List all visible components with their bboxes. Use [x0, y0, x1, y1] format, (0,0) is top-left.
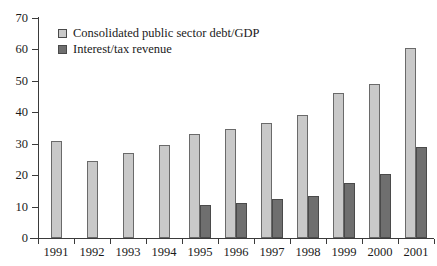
chart-legend: Consolidated public sector debt/GDPInter…: [58, 26, 259, 58]
x-axis-label-1994: 1994: [146, 246, 182, 259]
x-axis-label-1993: 1993: [110, 246, 146, 259]
bar-consolidated-public-sector-debt-gdp-1991: [51, 141, 62, 238]
x-axis-label-1999: 1999: [326, 246, 362, 259]
x-axis-tick: [74, 239, 75, 244]
x-axis-label-1995: 1995: [182, 246, 218, 259]
x-axis-label-2001: 2001: [398, 246, 434, 259]
legend-item-label: Consolidated public sector debt/GDP: [73, 27, 259, 40]
x-axis-tick: [326, 239, 327, 244]
bar-consolidated-public-sector-debt-gdp-1999: [333, 93, 344, 238]
x-axis-tick: [398, 239, 399, 244]
bar-interest-tax-revenue-1998: [308, 196, 319, 238]
bar-interest-tax-revenue-2000: [380, 174, 391, 238]
x-axis-tick: [434, 239, 435, 244]
bar-consolidated-public-sector-debt-gdp-1997: [261, 123, 272, 238]
x-axis-tick: [254, 239, 255, 244]
bar-interest-tax-revenue-1999: [344, 183, 355, 238]
bar-consolidated-public-sector-debt-gdp-1992: [87, 161, 98, 238]
y-axis-tick-label: 60: [0, 43, 28, 56]
x-axis-tick: [110, 239, 111, 244]
x-axis-tick: [146, 239, 147, 244]
bar-interest-tax-revenue-1996: [236, 203, 247, 239]
x-axis-tick: [290, 239, 291, 244]
y-axis-tick-label: 0: [0, 232, 28, 245]
bar-consolidated-public-sector-debt-gdp-1993: [123, 153, 134, 238]
x-axis-line: [30, 238, 434, 239]
bar-consolidated-public-sector-debt-gdp-1998: [297, 115, 308, 239]
x-axis-label-1998: 1998: [290, 246, 326, 259]
bar-consolidated-public-sector-debt-gdp-2001: [405, 48, 416, 238]
x-axis-label-1996: 1996: [218, 246, 254, 259]
y-axis-tick-label: 40: [0, 106, 28, 119]
bar-consolidated-public-sector-debt-gdp-1995: [189, 134, 200, 238]
y-axis-tick-label: 50: [0, 75, 28, 88]
x-axis-tick: [218, 239, 219, 244]
x-axis-tick: [362, 239, 363, 244]
legend-item: Interest/tax revenue: [58, 42, 259, 57]
bar-interest-tax-revenue-2001: [416, 147, 427, 238]
x-axis-tick: [182, 239, 183, 244]
x-axis-label-1997: 1997: [254, 246, 290, 259]
bar-consolidated-public-sector-debt-gdp-1996: [225, 129, 236, 238]
legend-swatch-icon: [58, 45, 67, 54]
legend-item: Consolidated public sector debt/GDP: [58, 26, 259, 41]
legend-swatch-icon: [58, 29, 67, 38]
x-axis-label-1992: 1992: [74, 246, 110, 259]
bar-consolidated-public-sector-debt-gdp-2000: [369, 84, 380, 238]
y-axis-tick-label: 30: [0, 138, 28, 151]
x-axis-label-1991: 1991: [38, 246, 74, 259]
bar-chart: 010203040506070 199119921993199419951996…: [0, 0, 437, 266]
bar-interest-tax-revenue-1995: [200, 205, 211, 238]
legend-item-label: Interest/tax revenue: [73, 43, 172, 56]
y-axis-tick-label: 10: [0, 201, 28, 214]
bar-consolidated-public-sector-debt-gdp-1994: [159, 145, 170, 238]
x-axis-label-2000: 2000: [362, 246, 398, 259]
y-axis-tick-label: 20: [0, 169, 28, 182]
x-axis-tick: [38, 239, 39, 244]
y-axis-tick-label: 70: [0, 12, 28, 25]
bar-interest-tax-revenue-1997: [272, 199, 283, 238]
